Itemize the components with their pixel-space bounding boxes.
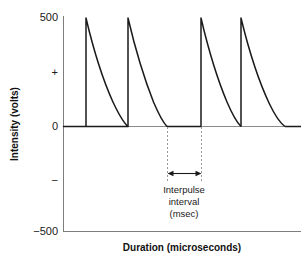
y-tick-label-neg500: −500	[33, 225, 58, 237]
chart-canvas: 500 + 0 − −500 Interpulse interval (msec…	[0, 0, 305, 259]
pulse-waveform-chart: 500 + 0 − −500 Interpulse interval (msec…	[0, 0, 305, 259]
interpulse-arrow-head-left	[168, 171, 174, 177]
y-tick-label-500: 500	[40, 11, 58, 23]
pulse-trace-1	[64, 18, 129, 127]
pulse-trace-4	[241, 18, 285, 127]
y-tick-label-zero: 0	[52, 120, 58, 132]
interpulse-annotation-line-1: Interpulse	[163, 184, 205, 195]
pulse-trace-3	[201, 18, 241, 127]
interpulse-annotation-line-3: (msec)	[169, 208, 198, 219]
pulse-trace-2	[128, 18, 167, 127]
interpulse-arrow-head-right	[196, 171, 202, 177]
y-tick-label-minus: −	[52, 174, 58, 186]
y-tick-label-plus: +	[52, 66, 58, 78]
x-axis-title: Duration (microseconds)	[123, 242, 241, 253]
interpulse-annotation-line-2: interval	[169, 196, 200, 207]
y-axis-title: Intensity (volts)	[9, 87, 20, 161]
